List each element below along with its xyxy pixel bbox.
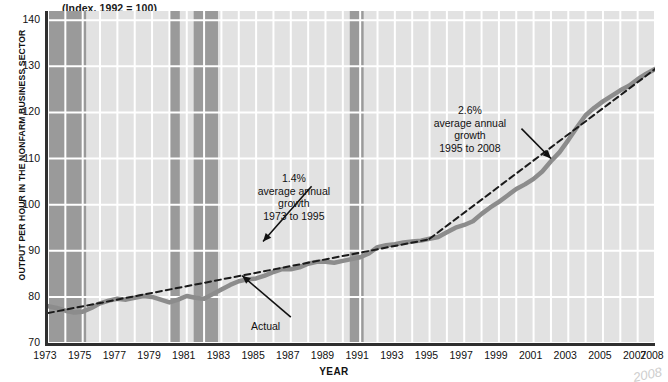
productivity-chart-figure: (Index, 1992 = 100) OUTPUT PER HOUR IN T… (0, 0, 668, 382)
y-tick-label: 100 (0, 198, 40, 210)
annotation-line: average annual (434, 117, 506, 130)
y-tick-label: 140 (0, 13, 40, 25)
annotation-line: growth (434, 129, 506, 142)
annotation-actual-label: Actual (251, 320, 280, 332)
y-tick-label: 70 (0, 336, 40, 348)
recession-1973-1975-band (48, 11, 86, 343)
annotation-line: 1973 to 1995 (258, 210, 330, 223)
annotation-growth-1995-2008: 2.6%average annualgrowth1995 to 2008 (434, 104, 506, 154)
y-tick-label: 120 (0, 105, 40, 117)
plot-area (45, 11, 655, 346)
annotation-line: 2.6% (434, 104, 506, 117)
recession-1980-band (169, 11, 179, 343)
recession-1990-1991-band (350, 11, 364, 343)
chart-svg (48, 11, 655, 343)
annotation-growth-1973-1995: 1.4%average annualgrowth1973 to 1995 (258, 172, 330, 222)
y-tick-label: 110 (0, 152, 40, 164)
y-tick-label: 90 (0, 244, 40, 256)
y-tick-label: 130 (0, 59, 40, 71)
x-axis-title: YEAR (0, 366, 668, 377)
annotation-line: growth (258, 197, 330, 210)
annotation-line: 1995 to 2008 (434, 142, 506, 155)
annotation-line: average annual (258, 185, 330, 198)
annotation-line: 1.4% (258, 172, 330, 185)
y-tick-label: 80 (0, 290, 40, 302)
x-tick-label: 2008 (632, 349, 668, 361)
annotation-arrow (521, 129, 550, 159)
